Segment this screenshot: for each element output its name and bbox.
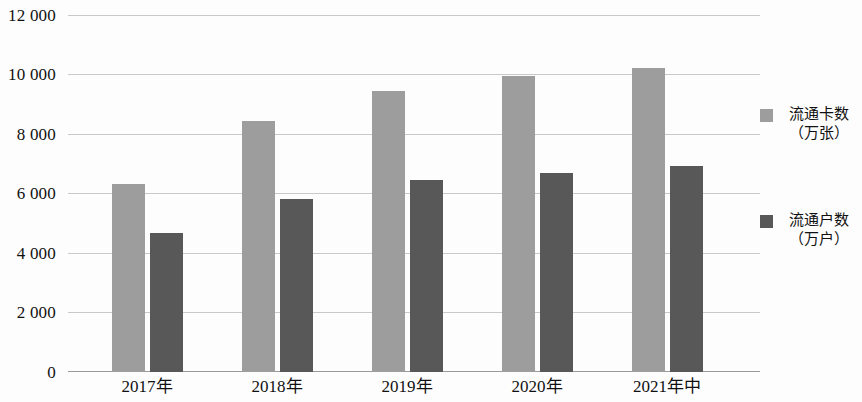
bar-cards-2018 [242, 121, 275, 372]
legend-label-cards-line1: 流通卡数 [789, 106, 849, 122]
bar-accounts-2018 [280, 199, 313, 372]
legend-label-accounts-line1: 流通户数 [789, 212, 849, 228]
bar-chart: 12 000 10 000 8 000 6 000 4 000 2 000 0 [0, 0, 862, 402]
legend-item-cards: 流通卡数 （万张） [760, 105, 862, 143]
x-tick-label-2020: 2020年 [482, 376, 592, 398]
legend-label-accounts: 流通户数 （万户） [780, 211, 858, 249]
y-tick-label: 10 000 [0, 66, 56, 83]
bar-group-2018 [242, 15, 313, 372]
bar-accounts-2021 [670, 166, 703, 372]
bar-group-2020 [502, 15, 573, 372]
bar-accounts-2019 [410, 180, 443, 372]
x-axis-labels: 2017年 2018年 2019年 2020年 2021年中 [68, 376, 760, 402]
bar-group-2017 [112, 15, 183, 372]
bar-cards-2017 [112, 184, 145, 372]
legend-label-cards: 流通卡数 （万张） [780, 105, 858, 143]
y-tick-label: 0 [0, 364, 56, 381]
bar-series-container [68, 15, 760, 372]
legend-label-cards-line2: （万张） [780, 124, 858, 143]
y-axis-labels: 12 000 10 000 8 000 6 000 4 000 2 000 0 [0, 0, 60, 402]
legend-swatch-cards-icon [760, 109, 773, 122]
bar-cards-2019 [372, 91, 405, 373]
x-tick-label-2018: 2018年 [222, 376, 332, 398]
legend-item-accounts: 流通户数 （万户） [760, 211, 862, 249]
legend-swatch-accounts-icon [760, 215, 773, 228]
y-tick-label: 6 000 [0, 185, 56, 202]
x-tick-label-2019: 2019年 [352, 376, 462, 398]
x-tick-label-2017: 2017年 [92, 376, 202, 398]
bar-group-2021 [632, 15, 703, 372]
plot-area [68, 15, 760, 372]
y-tick-label: 8 000 [0, 126, 56, 143]
x-tick-label-2021: 2021年中 [612, 376, 722, 398]
bar-cards-2020 [502, 76, 535, 372]
chart-legend: 流通卡数 （万张） 流通户数 （万户） [760, 0, 862, 402]
bar-group-2019 [372, 15, 443, 372]
bar-accounts-2017 [150, 233, 183, 372]
y-tick-label: 4 000 [0, 245, 56, 262]
legend-label-accounts-line2: （万户） [780, 230, 858, 249]
bar-accounts-2020 [540, 173, 573, 372]
y-tick-label: 12 000 [0, 7, 56, 24]
bar-cards-2021 [632, 68, 665, 372]
y-tick-label: 2 000 [0, 304, 56, 321]
